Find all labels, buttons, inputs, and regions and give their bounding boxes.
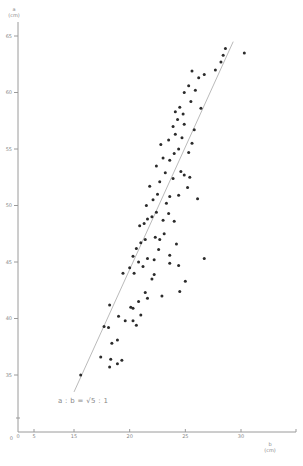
data-point	[183, 173, 186, 176]
data-point	[139, 314, 142, 317]
x-tick-label: 30	[238, 433, 244, 439]
data-point	[173, 220, 176, 223]
data-point	[153, 258, 156, 261]
x-tick-label: 0	[16, 433, 19, 439]
data-point	[173, 152, 176, 155]
data-point	[224, 47, 227, 50]
data-point	[177, 264, 180, 267]
data-point	[155, 211, 158, 214]
y-tick-label: 45	[6, 259, 12, 265]
y-tick-label: 65	[6, 33, 12, 39]
data-point	[164, 171, 167, 174]
data-point	[179, 170, 182, 173]
data-point	[203, 257, 206, 260]
data-point	[163, 232, 166, 235]
y-tick-label: 40	[6, 315, 12, 321]
data-point	[157, 248, 160, 251]
y-tick-label: 60	[6, 89, 12, 95]
data-point	[148, 185, 151, 188]
data-point	[182, 112, 185, 115]
data-point	[162, 219, 165, 222]
data-point	[116, 362, 119, 365]
data-point	[187, 84, 190, 87]
data-point	[121, 272, 124, 275]
data-point	[139, 241, 142, 244]
data-point	[144, 238, 147, 241]
y-tick-label: 35	[6, 372, 12, 378]
data-point	[137, 300, 140, 303]
data-point	[222, 54, 225, 57]
data-point	[135, 324, 138, 327]
ratio-line	[74, 42, 233, 392]
x-tick-label: 5	[32, 433, 35, 439]
data-point	[214, 68, 217, 71]
ratio-annotation: a : b = √5 : 1	[58, 397, 108, 405]
data-point	[196, 197, 199, 200]
data-point	[146, 297, 149, 300]
data-point	[160, 294, 163, 297]
data-point	[165, 202, 168, 205]
data-point	[146, 257, 149, 260]
data-point	[167, 138, 170, 141]
data-point	[108, 303, 111, 306]
y-tick-label: 55	[6, 146, 12, 152]
data-point	[116, 338, 119, 341]
data-point	[191, 142, 194, 145]
data-point	[199, 107, 202, 110]
data-point	[194, 89, 197, 92]
data-point	[150, 277, 153, 280]
data-point	[154, 236, 157, 239]
data-point	[135, 247, 138, 250]
data-point	[197, 76, 200, 79]
x-tick-label: 15	[71, 433, 77, 439]
y-axis-unit: (cm)	[6, 12, 22, 18]
y-tick-label: 0	[10, 435, 13, 441]
data-point	[120, 359, 123, 362]
x-axis-title: b (cm)	[262, 441, 278, 453]
data-point	[143, 222, 146, 225]
data-point	[186, 186, 189, 189]
data-point	[178, 106, 181, 109]
data-point	[108, 366, 111, 369]
data-point	[155, 164, 158, 167]
y-axis-title: a (cm)	[6, 6, 22, 18]
data-point	[132, 255, 135, 258]
data-point	[137, 261, 140, 264]
data-point	[124, 319, 127, 322]
data-point	[168, 159, 171, 162]
data-point	[144, 291, 147, 294]
x-axis-ticks: 0515202530	[16, 429, 244, 439]
x-tick-label: 25	[182, 433, 188, 439]
data-point	[168, 262, 171, 265]
data-point	[191, 70, 194, 73]
data-point	[99, 355, 102, 358]
data-point	[133, 272, 136, 275]
data-point	[107, 326, 110, 329]
data-point	[138, 224, 141, 227]
data-point	[243, 51, 246, 54]
data-point	[189, 100, 192, 103]
data-point	[177, 148, 180, 151]
data-point	[110, 342, 113, 345]
data-points	[79, 47, 246, 377]
data-point	[172, 125, 175, 128]
data-point	[103, 325, 106, 328]
data-point	[183, 123, 186, 126]
data-point	[109, 358, 112, 361]
data-point	[158, 180, 161, 183]
data-point	[219, 60, 222, 63]
data-point	[153, 273, 156, 276]
data-point	[150, 215, 153, 218]
data-point	[168, 195, 171, 198]
x-axis-unit: (cm)	[262, 447, 278, 453]
data-point	[172, 177, 175, 180]
data-point	[176, 118, 179, 121]
data-point	[142, 265, 145, 268]
data-point	[132, 307, 135, 310]
data-point	[145, 204, 148, 207]
data-point	[146, 218, 149, 221]
data-point	[184, 280, 187, 283]
data-point	[203, 73, 206, 76]
data-point	[159, 143, 162, 146]
scatter-chart: 035404550556065 0515202530 a (cm) b (cm)…	[0, 0, 303, 466]
